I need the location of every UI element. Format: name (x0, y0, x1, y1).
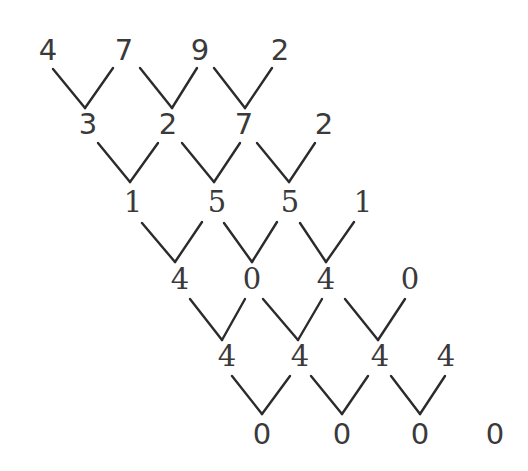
connector-line (172, 68, 197, 108)
row-4-value-2: 0 (237, 265, 267, 294)
row-3-value-4: 1 (348, 188, 378, 217)
connector-line (345, 299, 378, 340)
connector-line (85, 68, 113, 108)
connector-line (222, 299, 245, 340)
connector-line (182, 143, 214, 182)
connector-line (263, 299, 298, 340)
row-6-value-3: 0 (405, 420, 435, 449)
row-4-value-4: 0 (395, 265, 425, 294)
connector-line (224, 223, 252, 262)
connector-line (232, 376, 262, 414)
connector-line (391, 376, 420, 414)
row-1-value-4: 2 (265, 36, 295, 65)
connector-line (142, 223, 175, 262)
connector-line (98, 143, 130, 182)
row-3-value-2: 5 (202, 188, 232, 217)
connector-line (140, 68, 172, 108)
connector-line (245, 68, 272, 108)
row-2-value-4: 2 (309, 110, 339, 139)
connector-line (257, 143, 289, 182)
connector-line (175, 222, 202, 262)
connector-line (311, 376, 342, 414)
connector-line (420, 376, 445, 414)
row-2-value-2: 2 (153, 110, 183, 139)
row-4-value-3: 4 (311, 265, 341, 294)
connector-line (289, 143, 315, 182)
connector-line (214, 68, 245, 108)
connector-line (342, 376, 368, 414)
connector-lines (0, 0, 528, 471)
difference-triangle-diagram: 4 7 9 2 3 2 7 2 1 5 5 1 4 0 4 0 4 4 4 4 … (0, 0, 528, 471)
connector-line (252, 222, 277, 262)
row-1-value-2: 7 (109, 36, 139, 65)
connector-line (300, 223, 326, 262)
connector-line (298, 299, 322, 340)
connector-line (378, 299, 405, 340)
connector-line (53, 69, 85, 108)
connector-line (214, 143, 240, 182)
row-5-value-1: 4 (212, 342, 242, 371)
row-3-value-1: 1 (118, 188, 148, 217)
row-3-value-3: 5 (275, 188, 305, 217)
row-5-value-3: 4 (365, 342, 395, 371)
row-1-value-3: 9 (185, 36, 215, 65)
connector-line (262, 376, 290, 414)
connector-line (190, 299, 222, 340)
connector-line (326, 222, 354, 262)
row-1-value-1: 4 (33, 36, 63, 65)
row-2-value-3: 7 (229, 110, 259, 139)
row-6-value-1: 0 (247, 420, 277, 449)
connector-line (130, 143, 158, 182)
row-2-value-1: 3 (73, 110, 103, 139)
row-6-value-4: 0 (480, 420, 510, 449)
row-5-value-2: 4 (285, 342, 315, 371)
row-6-value-2: 0 (327, 420, 357, 449)
row-5-value-4: 4 (431, 342, 461, 371)
row-4-value-1: 4 (165, 265, 195, 294)
